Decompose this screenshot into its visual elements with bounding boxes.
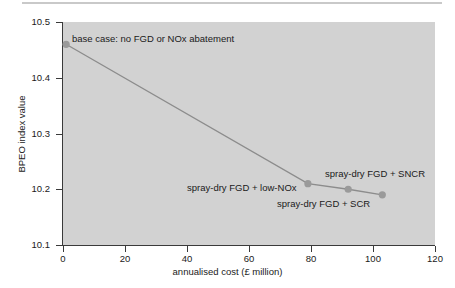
x-tick-3 [249, 246, 250, 252]
y-tick-2 [56, 134, 62, 135]
data-point [379, 191, 386, 198]
y-axis-title-wrapper: BPEO index value [14, 22, 28, 245]
x-tick-4 [311, 246, 312, 252]
y-tick-1 [56, 189, 62, 190]
annotation-base-case: base case: no FGD or NOx abatement [72, 33, 234, 44]
x-tick-label-1: 20 [105, 254, 145, 264]
y-tick-3 [56, 78, 62, 79]
x-tick-label-2: 40 [167, 254, 207, 264]
x-tick-1 [125, 246, 126, 252]
figure-top-rule [22, 2, 442, 4]
data-point [345, 186, 352, 193]
y-tick-4 [56, 22, 62, 23]
x-tick-2 [187, 246, 188, 252]
annotation-scr: spray-dry FGD + SCR [277, 198, 370, 209]
x-axis-title: annualised cost (£ million) [0, 266, 455, 277]
data-point [304, 180, 311, 187]
y-axis-title: BPEO index value [16, 95, 27, 172]
data-point [63, 41, 70, 48]
annotation-sncr: spray-dry FGD + SNCR [325, 168, 425, 179]
x-tick-label-0: 0 [43, 254, 83, 264]
data-series [63, 22, 435, 245]
x-tick-label-4: 80 [291, 254, 331, 264]
x-tick-5 [373, 246, 374, 252]
y-tick-0 [56, 245, 62, 246]
x-tick-6 [435, 246, 436, 252]
x-tick-label-5: 100 [353, 254, 393, 264]
annotation-low-nox: spray-dry FGD + low-NOx [187, 182, 297, 193]
x-tick-0 [63, 246, 64, 252]
x-tick-label-6: 120 [415, 254, 455, 264]
chart-figure: 10.1 10.2 10.3 10.4 10.5 0 20 40 60 80 1… [0, 0, 455, 288]
x-tick-label-3: 60 [229, 254, 269, 264]
